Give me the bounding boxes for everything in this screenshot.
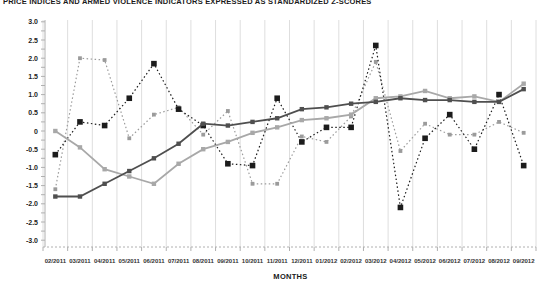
data-point-black-dotted-line xyxy=(496,92,502,98)
data-point-black-dotted-line xyxy=(472,146,478,152)
data-point-dark-gray-solid-line xyxy=(102,182,106,186)
y-tick-label: 2.5 xyxy=(28,37,38,44)
x-tick-label: 03/2011 xyxy=(69,258,91,264)
data-point-light-gray-solid-line xyxy=(250,131,254,135)
data-point-light-gray-solid-line xyxy=(521,81,525,85)
data-point-dark-gray-solid-line xyxy=(374,100,378,104)
data-point-dark-gray-solid-line xyxy=(423,98,427,102)
x-tick-label: 09/2012 xyxy=(513,258,535,264)
data-point-light-gray-solid-line xyxy=(423,89,427,93)
data-point-gray-dotted-line xyxy=(275,182,279,186)
y-tick-label: 3.0 xyxy=(28,18,38,25)
y-tick-label: 2.0 xyxy=(28,55,38,62)
x-tick-label: 02/2011 xyxy=(45,258,67,264)
x-tick-label: 04/2012 xyxy=(390,258,412,264)
data-point-gray-dotted-line xyxy=(127,136,131,140)
data-point-light-gray-solid-line xyxy=(201,147,205,151)
data-point-dark-gray-solid-line xyxy=(300,107,304,111)
data-point-dark-gray-solid-line xyxy=(448,98,452,102)
data-point-black-dotted-line xyxy=(521,163,527,169)
x-tick-label: 11/2011 xyxy=(267,258,289,264)
x-tick-label: 02/2012 xyxy=(340,258,362,264)
data-point-black-dotted-line xyxy=(77,119,83,125)
data-point-black-dotted-line xyxy=(126,95,132,101)
y-tick-label: 0 xyxy=(34,128,38,135)
data-point-dark-gray-solid-line xyxy=(152,156,156,160)
x-tick-label: 05/2011 xyxy=(119,258,141,264)
y-tick-label: 1.5 xyxy=(28,73,38,80)
data-point-dark-gray-solid-line xyxy=(78,194,82,198)
data-point-light-gray-solid-line xyxy=(275,125,279,129)
data-point-light-gray-solid-line xyxy=(176,162,180,166)
data-point-gray-dotted-line xyxy=(374,60,378,64)
data-point-gray-dotted-line xyxy=(226,109,230,113)
data-point-black-dotted-line xyxy=(250,163,256,169)
data-point-light-gray-solid-line xyxy=(102,167,106,171)
x-tick-label: 06/2011 xyxy=(143,258,165,264)
y-tick-label: -2.0 xyxy=(26,200,38,207)
data-point-light-gray-solid-line xyxy=(78,145,82,149)
data-point-gray-dotted-line xyxy=(152,113,156,117)
data-point-black-dotted-line xyxy=(422,135,428,141)
y-tick-label: -2.5 xyxy=(26,219,38,226)
x-tick-label: 06/2012 xyxy=(439,258,461,264)
data-point-black-dotted-line xyxy=(53,152,59,158)
data-point-dark-gray-solid-line xyxy=(472,100,476,104)
data-point-gray-dotted-line xyxy=(251,182,255,186)
data-point-light-gray-solid-line xyxy=(152,182,156,186)
y-tick-label: 1.0 xyxy=(28,91,38,98)
x-tick-label: 10/2011 xyxy=(242,258,264,264)
data-point-gray-dotted-line xyxy=(448,133,452,137)
data-point-gray-dotted-line xyxy=(201,133,205,137)
data-point-gray-dotted-line xyxy=(78,56,82,60)
y-tick-label: -0.5 xyxy=(26,146,38,153)
data-point-black-dotted-line xyxy=(324,125,330,131)
data-point-dark-gray-solid-line xyxy=(201,122,205,126)
data-point-dark-gray-solid-line xyxy=(497,100,501,104)
y-tick-label: -3.0 xyxy=(26,237,38,244)
x-tick-label: 08/2012 xyxy=(488,258,510,264)
x-tick-label: 01/2012 xyxy=(316,258,338,264)
data-point-dark-gray-solid-line xyxy=(176,142,180,146)
data-point-gray-dotted-line xyxy=(497,120,501,124)
data-point-dark-gray-solid-line xyxy=(250,120,254,124)
data-point-dark-gray-solid-line xyxy=(127,169,131,173)
data-point-light-gray-solid-line xyxy=(324,116,328,120)
x-tick-label: 07/2011 xyxy=(168,258,190,264)
data-point-gray-dotted-line xyxy=(522,131,526,135)
data-point-black-dotted-line xyxy=(447,112,453,118)
data-point-black-dotted-line xyxy=(299,139,305,145)
data-point-light-gray-solid-line xyxy=(127,174,131,178)
data-point-black-dotted-line xyxy=(151,61,157,67)
x-tick-label: 03/2012 xyxy=(365,258,387,264)
data-point-light-gray-solid-line xyxy=(472,94,476,98)
data-point-light-gray-solid-line xyxy=(53,129,57,133)
data-point-dark-gray-solid-line xyxy=(226,123,230,127)
data-point-black-dotted-line xyxy=(176,106,182,112)
data-point-black-dotted-line xyxy=(398,205,404,211)
data-point-dark-gray-solid-line xyxy=(521,87,525,91)
data-point-black-dotted-line xyxy=(102,123,108,129)
x-tick-label: 04/2011 xyxy=(94,258,116,264)
data-point-gray-dotted-line xyxy=(103,58,107,62)
data-point-black-dotted-line xyxy=(274,95,280,101)
x-tick-label: 05/2012 xyxy=(414,258,436,264)
y-tick-label: -1.0 xyxy=(26,164,38,171)
data-point-dark-gray-solid-line xyxy=(324,105,328,109)
data-point-gray-dotted-line xyxy=(472,133,476,137)
data-point-gray-dotted-line xyxy=(399,149,403,153)
x-tick-label: 12/2011 xyxy=(291,258,313,264)
data-point-dark-gray-solid-line xyxy=(275,116,279,120)
data-point-gray-dotted-line xyxy=(300,135,304,139)
data-point-light-gray-solid-line xyxy=(349,112,353,116)
y-tick-label: 0.5 xyxy=(28,109,38,116)
data-point-gray-dotted-line xyxy=(423,122,427,126)
data-point-gray-dotted-line xyxy=(53,187,57,191)
data-point-light-gray-solid-line xyxy=(226,140,230,144)
x-axis-label: MONTHS xyxy=(45,272,536,281)
x-tick-label: 07/2012 xyxy=(464,258,486,264)
data-point-dark-gray-solid-line xyxy=(398,96,402,100)
chart-canvas: 3.02.52.01.51.00.50-0.5-1.0-1.5-2.0-2.5-… xyxy=(0,0,543,287)
data-point-black-dotted-line xyxy=(348,125,354,131)
data-point-dark-gray-solid-line xyxy=(53,194,57,198)
